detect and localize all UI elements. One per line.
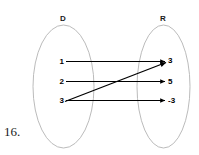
range-ellipse — [137, 25, 190, 148]
range-element-3: 3 — [168, 56, 184, 65]
mapping-diagram-figure: D R 1 2 3 3 5 -3 16. — [0, 0, 199, 155]
domain-ellipse — [33, 25, 94, 148]
range-element-5: 5 — [168, 77, 184, 86]
figure-number-label: 16. — [4, 124, 20, 140]
domain-set-label: D — [60, 14, 66, 23]
range-set-label: R — [160, 14, 166, 23]
domain-element-3: 3 — [52, 96, 64, 105]
range-element-negative-3: -3 — [168, 96, 184, 105]
domain-element-1: 1 — [52, 57, 64, 66]
domain-element-2: 2 — [52, 77, 64, 86]
